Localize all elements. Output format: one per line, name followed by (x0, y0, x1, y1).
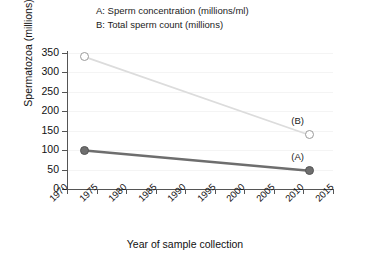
data-point-a (80, 146, 89, 155)
chart-legend: A: Sperm concentration (millions/ml) B: … (96, 4, 249, 32)
y-gridline (68, 53, 333, 54)
y-gridline (68, 111, 333, 112)
y-axis-tick-label: 350 (28, 46, 59, 58)
y-axis-tick (62, 170, 67, 171)
y-gridline (68, 170, 333, 171)
data-point-b (305, 130, 314, 139)
y-gridline (68, 72, 333, 73)
y-axis-tick-label: 300 (28, 65, 59, 77)
y-axis-tick (62, 150, 67, 151)
y-axis-tick (62, 53, 67, 54)
y-axis-tick-label: 50 (28, 163, 59, 175)
y-axis-tick-label: 100 (28, 143, 59, 155)
x-axis-tick-label: 1975 (77, 181, 100, 204)
series-line-a (85, 151, 310, 171)
x-axis-tick-label: 1995 (195, 181, 218, 204)
y-gridline (68, 131, 333, 132)
x-axis-tick-label: 1985 (136, 181, 159, 204)
data-point-a (305, 166, 314, 175)
x-axis-title: Year of sample collection (0, 238, 370, 250)
y-axis-tick (62, 131, 67, 132)
y-axis-tick-label: 200 (28, 104, 59, 116)
series-annotation-a: (A) (291, 151, 304, 162)
series-line-b (85, 57, 310, 135)
y-axis-tick (62, 72, 67, 73)
y-axis-tick-label: 250 (28, 85, 59, 97)
legend-label-b: B: Total sperm count (millions) (96, 18, 223, 32)
series-annotation-b: (B) (291, 115, 304, 126)
legend-label-a: A: Sperm concentration (millions/ml) (96, 4, 249, 18)
y-axis-tick (62, 111, 67, 112)
chart-figure: A: Sperm concentration (millions/ml) B: … (0, 0, 370, 263)
y-axis-tick-label: 150 (28, 124, 59, 136)
legend-item-b: B: Total sperm count (millions) (96, 18, 249, 32)
data-point-b (80, 52, 89, 61)
y-axis-tick (62, 92, 67, 93)
legend-item-a: A: Sperm concentration (millions/ml) (96, 4, 249, 18)
y-gridline (68, 92, 333, 93)
